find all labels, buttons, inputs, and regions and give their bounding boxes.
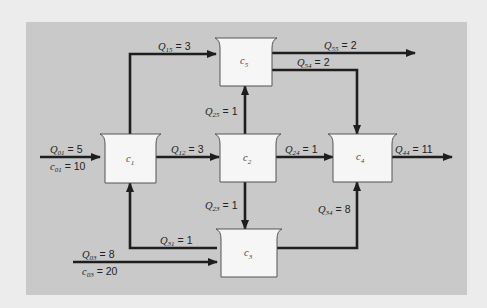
label-q44: Q44= 11 [395, 143, 433, 157]
reactor-network-diagram: c1 c2 c3 c4 c5 Q01= 5 c01= 10 Q12= 3 Q24… [0, 0, 487, 308]
